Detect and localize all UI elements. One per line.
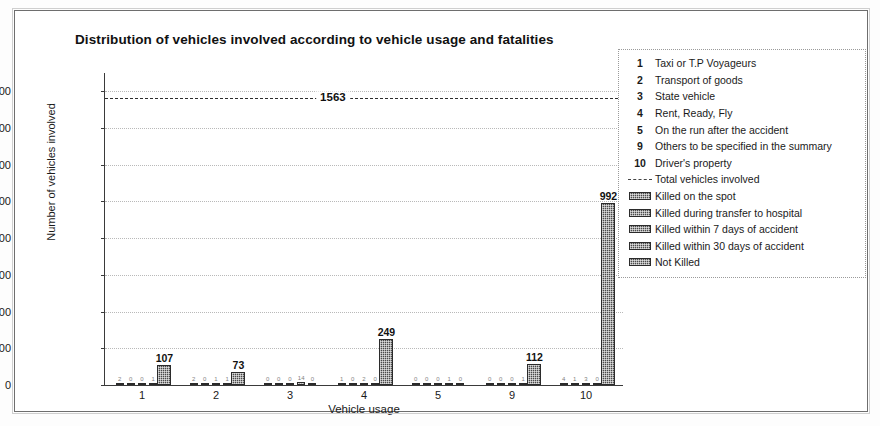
bar-value-label: 1 bbox=[522, 376, 525, 382]
swatch-shape bbox=[629, 242, 651, 250]
bar-value-label: 112 bbox=[526, 351, 543, 363]
bar[interactable]: 2 bbox=[114, 383, 125, 385]
bar[interactable]: 249 bbox=[381, 339, 392, 385]
bar-rect[interactable] bbox=[338, 383, 346, 385]
legend-item[interactable]: 9Others to be specified in the summary bbox=[625, 138, 859, 155]
legend-item[interactable]: 4Rent, Ready, Fly bbox=[625, 105, 859, 122]
legend-item[interactable]: Killed on the spot bbox=[625, 188, 859, 205]
bar[interactable]: 0 bbox=[495, 383, 506, 385]
bar-rect[interactable] bbox=[456, 383, 464, 385]
legend-item[interactable]: Killed during transfer to hospital bbox=[625, 204, 859, 221]
bar-rect[interactable] bbox=[508, 383, 516, 385]
bar-value-label: 0 bbox=[374, 376, 377, 382]
bar-rect[interactable] bbox=[264, 383, 272, 385]
bar[interactable]: 0 bbox=[410, 383, 421, 385]
y-tick-label: 1400 bbox=[0, 122, 11, 134]
bar[interactable]: 0 bbox=[506, 383, 517, 385]
bar-rect[interactable] bbox=[201, 383, 209, 385]
hatch-swatch-icon bbox=[625, 242, 655, 250]
bar[interactable]: 14 bbox=[296, 382, 307, 385]
y-tick-label: 1600 bbox=[0, 85, 11, 97]
legend-item[interactable]: Total vehicles involved bbox=[625, 171, 859, 188]
bar[interactable]: 2 bbox=[358, 383, 369, 385]
bar-rect[interactable] bbox=[497, 383, 505, 385]
bar[interactable]: 0 bbox=[136, 383, 147, 385]
hatch-swatch-icon bbox=[625, 192, 655, 200]
bar-rect[interactable] bbox=[412, 383, 420, 385]
bar-rect[interactable] bbox=[275, 383, 283, 385]
legend-key: 10 bbox=[625, 157, 655, 169]
bar-rect[interactable] bbox=[571, 383, 579, 385]
legend-key: 3 bbox=[625, 90, 655, 102]
bar[interactable]: 0 bbox=[125, 383, 136, 385]
bar-value-label: 0 bbox=[140, 376, 143, 382]
bar[interactable]: 1 bbox=[210, 383, 221, 385]
bar[interactable]: 0 bbox=[307, 383, 318, 385]
bar-rect[interactable] bbox=[149, 383, 157, 385]
bar[interactable]: 0 bbox=[455, 383, 466, 385]
bar[interactable]: 1 bbox=[569, 383, 580, 385]
bar-value-label: 0 bbox=[288, 376, 291, 382]
bar-rect[interactable] bbox=[486, 383, 494, 385]
bar-rect[interactable] bbox=[231, 372, 245, 385]
legend-item[interactable]: Not Killed bbox=[625, 254, 859, 271]
bar-rect[interactable] bbox=[297, 382, 305, 385]
bar-rect[interactable] bbox=[527, 364, 541, 385]
bar-rect[interactable] bbox=[434, 383, 442, 385]
bar-rect[interactable] bbox=[560, 383, 568, 385]
bar[interactable]: 73 bbox=[233, 372, 244, 385]
legend-item[interactable]: 3State vehicle bbox=[625, 88, 859, 105]
bar-rect[interactable] bbox=[519, 383, 527, 385]
gridline bbox=[105, 238, 623, 239]
bar[interactable]: 0 bbox=[484, 383, 495, 385]
bar[interactable]: 1 bbox=[336, 383, 347, 385]
legend-label: State vehicle bbox=[655, 90, 715, 102]
bar-rect[interactable] bbox=[212, 383, 220, 385]
bar-value-label: 107 bbox=[156, 352, 174, 364]
legend-item[interactable]: Killed within 30 days of accident bbox=[625, 238, 859, 255]
bar-rect[interactable] bbox=[601, 203, 615, 385]
bar-value-label: 73 bbox=[233, 359, 245, 371]
bar-rect[interactable] bbox=[190, 383, 198, 385]
legend-item[interactable]: 2Transport of goods bbox=[625, 72, 859, 89]
legend-item[interactable]: 5On the run after the accident bbox=[625, 121, 859, 138]
bar-value-label: 1 bbox=[226, 376, 229, 382]
bar[interactable]: 0 bbox=[199, 383, 210, 385]
bar[interactable]: 0 bbox=[273, 383, 284, 385]
legend-item[interactable]: Killed within 7 days of accident bbox=[625, 221, 859, 238]
bar[interactable]: 1 bbox=[444, 383, 455, 385]
bar[interactable]: 0 bbox=[284, 383, 295, 385]
bar[interactable]: 0 bbox=[432, 383, 443, 385]
legend-label: Transport of goods bbox=[655, 74, 743, 86]
bar[interactable]: 0 bbox=[262, 383, 273, 385]
bar[interactable]: 992 bbox=[603, 203, 614, 385]
bar-rect[interactable] bbox=[593, 383, 601, 385]
bar-rect[interactable] bbox=[445, 383, 453, 385]
bar-rect[interactable] bbox=[423, 383, 431, 385]
bar-rect[interactable] bbox=[582, 383, 590, 385]
bar-rect[interactable] bbox=[116, 383, 124, 385]
bar[interactable]: 107 bbox=[159, 365, 170, 385]
bar[interactable]: 3 bbox=[580, 383, 591, 385]
bar-rect[interactable] bbox=[127, 383, 135, 385]
bar-rect[interactable] bbox=[157, 365, 171, 385]
legend-item[interactable]: 1Taxi or T.P Voyageurs bbox=[625, 55, 859, 72]
bar-rect[interactable] bbox=[360, 383, 368, 385]
legend-item[interactable]: 10Driver's property bbox=[625, 155, 859, 172]
bar-rect[interactable] bbox=[223, 383, 231, 385]
gridline bbox=[105, 275, 623, 276]
bar[interactable]: 2 bbox=[188, 383, 199, 385]
bar[interactable]: 0 bbox=[421, 383, 432, 385]
bar[interactable]: 112 bbox=[529, 364, 540, 385]
bar-group: 00010 bbox=[401, 383, 475, 385]
bar-rect[interactable] bbox=[308, 383, 316, 385]
bar-rect[interactable] bbox=[379, 339, 393, 385]
bar-rect[interactable] bbox=[349, 383, 357, 385]
bar-group: 0001112 bbox=[475, 364, 549, 385]
bar-rect[interactable] bbox=[286, 383, 294, 385]
legend-label: Total vehicles involved bbox=[655, 173, 759, 185]
bar[interactable]: 4 bbox=[558, 383, 569, 385]
bar-rect[interactable] bbox=[371, 383, 379, 385]
bar-rect[interactable] bbox=[138, 383, 146, 385]
bar[interactable]: 0 bbox=[347, 383, 358, 385]
